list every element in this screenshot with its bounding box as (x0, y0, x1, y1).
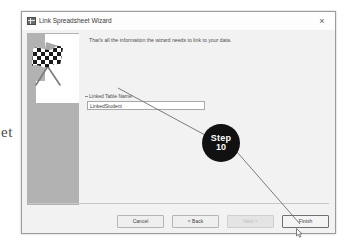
finish-button[interactable]: Finish (282, 215, 329, 228)
sidebar-illustration (27, 33, 79, 103)
checkered-flags-icon (27, 33, 79, 103)
screenshot-root: et Link Spreadsheet Wizard × (0, 0, 347, 251)
dialog-title: Link Spreadsheet Wizard (39, 18, 112, 25)
step-number: 10 (216, 143, 226, 152)
spreadsheet-wizard-icon (27, 17, 36, 25)
intro-text: That's all the information the wizard ne… (89, 38, 231, 43)
step-callout-badge: Step 10 (202, 124, 240, 162)
margin-stray-text: et (1, 124, 13, 141)
dialog-body: That's all the information the wizard ne… (22, 30, 335, 233)
wizard-main-pane: That's all the information the wizard ne… (85, 33, 329, 203)
link-spreadsheet-wizard-dialog: Link Spreadsheet Wizard × (21, 11, 336, 234)
cancel-button[interactable]: Cancel (117, 215, 164, 228)
dialog-titlebar: Link Spreadsheet Wizard × (22, 12, 335, 30)
linked-table-name-group: Linked Table Name: LinkedStudent (87, 94, 262, 110)
linked-table-name-input[interactable]: LinkedStudent (87, 101, 205, 110)
linked-table-name-label: Linked Table Name: (87, 94, 262, 99)
dialog-button-row: Cancel < Back Next > Finish (22, 214, 329, 229)
mouse-cursor-icon (296, 228, 303, 238)
footer-divider (28, 203, 329, 204)
wizard-sidebar (27, 33, 79, 205)
back-button[interactable]: < Back (172, 215, 219, 228)
close-icon[interactable]: × (309, 12, 335, 30)
next-button: Next > (227, 215, 274, 228)
